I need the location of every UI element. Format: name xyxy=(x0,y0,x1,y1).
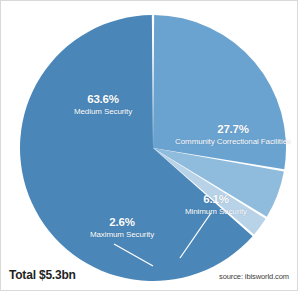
chart-source-label: source: ibisworld.com xyxy=(219,272,289,281)
pie-slices-group xyxy=(20,15,286,281)
slice-category-community-correctional-facilities: Community Correctional Facilities xyxy=(171,137,295,146)
slice-label-medium-security: 63.6% Medium Security xyxy=(53,93,153,116)
slice-percent-minimum-security: 6.1% xyxy=(177,193,255,206)
slice-label-minimum-security: 6.1% Minimum Security xyxy=(177,193,255,216)
slice-percent-community-correctional-facilities: 27.7% xyxy=(171,123,295,136)
slice-category-minimum-security: Minimum Security xyxy=(177,207,255,216)
slice-percent-medium-security: 63.6% xyxy=(53,93,153,106)
slice-category-medium-security: Medium Security xyxy=(53,107,153,116)
slice-label-maximum-security: 2.6% Maximum Security xyxy=(77,216,167,239)
slice-percent-maximum-security: 2.6% xyxy=(77,216,167,229)
chart-total-label: Total $5.3bn xyxy=(9,268,76,282)
slice-label-community-correctional-facilities: 27.7% Community Correctional Facilities xyxy=(171,123,295,146)
pie-chart-figure: 63.6% Medium Security 27.7% Community Co… xyxy=(0,0,298,291)
slice-category-maximum-security: Maximum Security xyxy=(77,230,167,239)
